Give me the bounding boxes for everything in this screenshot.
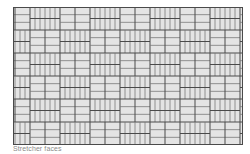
brick-pattern-figure <box>13 7 243 145</box>
figure-caption: Stretcher faces <box>13 145 62 152</box>
basketweave-svg <box>13 7 243 145</box>
